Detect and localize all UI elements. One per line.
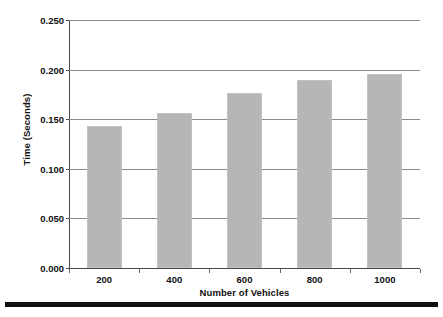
bottom-divider-rule (5, 302, 438, 307)
x-axis-title: Number of Vehicles (69, 287, 420, 298)
bar (157, 113, 192, 268)
y-tick-label: 0.250 (40, 15, 64, 26)
x-tick-label: 400 (166, 274, 182, 285)
bar-chart-figure: Time (Seconds) 0.0000.0500.1000.1500.200… (0, 0, 443, 317)
x-tick-label: 1000 (374, 274, 395, 285)
y-axis-title: Time (Seconds) (21, 60, 32, 200)
y-tick-label: 0.000 (40, 263, 64, 274)
y-tick-label: 0.050 (40, 213, 64, 224)
bar (87, 126, 122, 268)
x-tick-mark (420, 269, 421, 273)
x-tick-label: 200 (96, 274, 112, 285)
x-tick-label: 800 (307, 274, 323, 285)
x-tick-mark (139, 269, 140, 273)
bar (367, 74, 402, 268)
x-tick-mark (280, 269, 281, 273)
x-tick-mark (69, 269, 70, 273)
y-tick-label: 0.200 (40, 64, 64, 75)
y-tick-label: 0.100 (40, 163, 64, 174)
x-tick-label: 600 (237, 274, 253, 285)
bar (227, 93, 262, 268)
plot-area: 0.0000.0500.1000.1500.2000.250 200400600… (69, 20, 420, 268)
bar-series (69, 20, 420, 268)
x-tick-mark (350, 269, 351, 273)
y-tick-label: 0.150 (40, 114, 64, 125)
bar (297, 80, 332, 268)
gridline (69, 268, 420, 269)
x-tick-mark (209, 269, 210, 273)
